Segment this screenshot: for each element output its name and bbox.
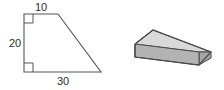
prism-figure [0, 0, 224, 90]
diagram-canvas: 10 20 30 [0, 0, 224, 90]
